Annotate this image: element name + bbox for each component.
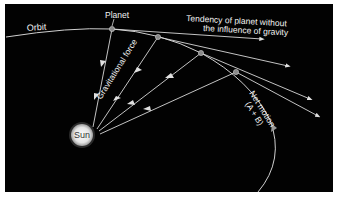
arrowhead-icon xyxy=(113,96,121,101)
sun-label: Sun xyxy=(74,130,90,140)
planet-2 xyxy=(155,34,160,39)
tendency-lines xyxy=(112,29,318,116)
planet-label: Planet xyxy=(105,10,130,20)
tendency-line-2 xyxy=(158,37,288,66)
arrowhead-icon xyxy=(134,67,142,73)
orbit-path xyxy=(6,29,275,192)
arrowhead-icon xyxy=(143,106,151,111)
gravity-line-4 xyxy=(100,72,236,134)
orbit-diagram: Orbit Planet Tendency of planet without … xyxy=(0,0,337,197)
planet-1 xyxy=(109,26,114,31)
orbit-label: Orbit xyxy=(26,22,47,33)
gravitational-force-label: Gravitational force xyxy=(94,37,139,101)
arrowhead-icon xyxy=(165,73,174,78)
planet-3 xyxy=(198,50,203,55)
planet-4 xyxy=(233,69,238,74)
arrowhead-icon xyxy=(127,100,135,105)
planet-pointer xyxy=(112,19,114,26)
